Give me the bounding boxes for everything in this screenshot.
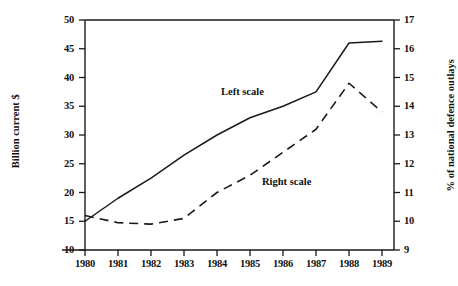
chart-figure: 50 45 40 35 30 25 20 15 10 17 16 15 14 1… bbox=[0, 0, 458, 286]
right-axis-ticks bbox=[394, 20, 400, 250]
right-tick-13: 13 bbox=[404, 130, 430, 141]
left-tick-20: 20 bbox=[48, 188, 74, 199]
right-tick-12: 12 bbox=[404, 159, 430, 170]
right-tick-9: 9 bbox=[404, 245, 430, 256]
right-tick-14: 14 bbox=[404, 101, 430, 112]
right-tick-15: 15 bbox=[404, 73, 430, 84]
bottom-axis-ticks bbox=[85, 250, 382, 256]
left-tick-45: 45 bbox=[48, 44, 74, 55]
x-tick-1989: 1989 bbox=[362, 259, 402, 270]
series-annotation-right-scale: Right scale bbox=[262, 177, 311, 188]
right-tick-11: 11 bbox=[404, 188, 430, 199]
left-tick-50: 50 bbox=[48, 15, 74, 26]
left-axis-ticks bbox=[79, 20, 85, 250]
left-tick-35: 35 bbox=[48, 101, 74, 112]
series-line-left-scale bbox=[85, 41, 382, 221]
right-axis-title: % of national defence outlays bbox=[446, 30, 457, 220]
series-annotation-left-scale: Left scale bbox=[221, 87, 264, 98]
left-tick-30: 30 bbox=[48, 130, 74, 141]
axis-lines bbox=[62, 20, 394, 250]
left-tick-40: 40 bbox=[48, 73, 74, 84]
right-tick-10: 10 bbox=[404, 216, 430, 227]
series-line-right-scale bbox=[85, 83, 382, 224]
left-tick-25: 25 bbox=[48, 159, 74, 170]
left-tick-10: 10 bbox=[48, 245, 74, 256]
right-tick-16: 16 bbox=[404, 44, 430, 55]
left-axis-title: Billion current $ bbox=[11, 71, 22, 191]
left-tick-15: 15 bbox=[48, 216, 74, 227]
right-tick-17: 17 bbox=[404, 15, 430, 26]
